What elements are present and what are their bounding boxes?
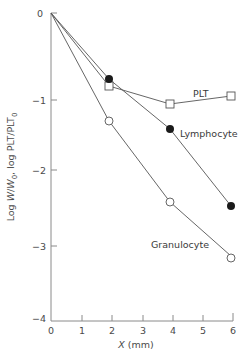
filled-circle-marker [105,75,113,83]
x-axis-title: X (mm) [117,339,153,350]
label-lymphocyte: Lymphocyte [180,128,238,139]
plt-markers [105,82,235,108]
filled-circle-marker [166,125,174,133]
svg-text:2: 2 [109,325,115,336]
svg-text:4: 4 [170,325,176,336]
y-axis-title: Log W/W0, log PLT/PLT0 [5,113,19,222]
svg-text:3: 3 [140,325,146,336]
svg-text:0: 0 [48,325,54,336]
square-marker [105,82,113,90]
label-plt: PLT [193,88,209,99]
y-tick-3: −3 [32,241,46,252]
x-tick-labels: 0 1 2 3 4 5 6 [48,325,236,336]
line-chart: 0 −1 −2 −3 −4 0 1 2 3 4 5 6 X (mm) Log W… [0,0,250,359]
square-marker [227,92,235,100]
svg-text:1: 1 [79,325,85,336]
y-tick-1: −1 [32,95,46,106]
series-line-lymphocyte [51,13,231,206]
open-circle-marker [227,254,235,262]
svg-text:6: 6 [230,325,236,336]
open-circle-marker [166,198,174,206]
x-ticks [82,313,233,321]
svg-text:5: 5 [200,325,206,336]
open-circle-marker [105,117,113,125]
y-tick-4: −4 [32,313,46,324]
y-tick-labels: 0 −1 −2 −3 −4 [32,8,46,324]
y-tick-0: 0 [37,8,43,19]
y-ticks [51,13,57,246]
filled-circle-marker [227,202,235,210]
lymphocyte-markers [105,75,235,210]
square-marker [166,100,174,108]
y-tick-2: −2 [32,165,46,176]
label-granulocyte: Granulocyte [151,239,209,250]
